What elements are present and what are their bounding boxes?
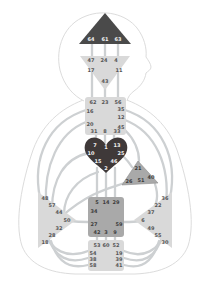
gate-62: 62 <box>90 99 97 105</box>
gate-21: 21 <box>135 165 142 171</box>
gate-11: 11 <box>116 67 123 73</box>
gate-33: 33 <box>114 128 121 134</box>
gate-28: 28 <box>49 232 56 238</box>
throat-center: 62 23 56 16 20 35 12 45 31 8 33 <box>85 97 126 135</box>
gate-9: 9 <box>113 229 117 235</box>
gate-24: 24 <box>101 57 108 63</box>
gate-37: 37 <box>148 209 155 215</box>
gate-64: 64 <box>88 36 95 42</box>
gate-60: 60 <box>103 242 110 248</box>
gate-31: 31 <box>91 128 98 134</box>
gate-49: 49 <box>148 225 155 231</box>
gate-56: 56 <box>115 99 122 105</box>
gate-30: 30 <box>162 239 169 245</box>
gate-7: 7 <box>93 142 97 148</box>
gate-43: 43 <box>102 78 109 84</box>
root-center: 53 60 52 54 38 58 19 39 41 <box>88 240 124 271</box>
gate-63: 63 <box>115 36 122 42</box>
gate-23: 23 <box>102 99 109 105</box>
gate-2: 2 <box>104 165 108 171</box>
gate-29: 29 <box>113 199 120 205</box>
bodygraph-figure: 64 61 63 47 24 4 17 11 43 62 23 56 16 20… <box>0 0 210 289</box>
gate-32: 32 <box>56 225 63 231</box>
gate-14: 14 <box>103 199 110 205</box>
gate-4: 4 <box>114 57 118 63</box>
gate-51: 51 <box>138 177 145 183</box>
gate-53: 53 <box>94 242 101 248</box>
gate-40: 40 <box>148 174 155 180</box>
gate-18: 18 <box>42 239 49 245</box>
gate-42: 42 <box>94 229 101 235</box>
gate-61: 61 <box>102 36 109 42</box>
gate-57: 57 <box>49 202 56 208</box>
gate-26: 26 <box>126 178 133 184</box>
gate-16: 16 <box>87 108 94 114</box>
sacral-center: 5 14 29 34 27 59 42 3 9 <box>88 197 124 237</box>
gate-52: 52 <box>113 242 120 248</box>
gate-48: 48 <box>42 195 49 201</box>
bodygraph-page: 64 61 63 47 24 4 17 11 43 62 23 56 16 20… <box>0 0 210 289</box>
gate-44: 44 <box>56 209 63 215</box>
gate-20: 20 <box>87 121 94 127</box>
gate-10: 10 <box>88 150 95 156</box>
gate-17: 17 <box>88 67 95 73</box>
gate-22: 22 <box>155 202 162 208</box>
gate-27: 27 <box>91 221 98 227</box>
gate-13: 13 <box>114 142 121 148</box>
gate-6: 6 <box>141 217 145 223</box>
gate-3: 3 <box>104 229 108 235</box>
gate-12: 12 <box>118 114 125 120</box>
gate-15: 15 <box>95 158 102 164</box>
gate-5: 5 <box>95 199 99 205</box>
gate-59: 59 <box>116 221 123 227</box>
gate-55: 55 <box>155 232 162 238</box>
gate-35: 35 <box>118 106 125 112</box>
gate-50: 50 <box>64 217 71 223</box>
gate-8: 8 <box>103 128 107 134</box>
gate-34: 34 <box>91 208 98 214</box>
gate-41: 41 <box>116 262 123 268</box>
gate-58: 58 <box>90 262 97 268</box>
gate-47: 47 <box>88 57 95 63</box>
gate-36: 36 <box>162 195 169 201</box>
gate-1: 1 <box>104 144 108 150</box>
gate-25: 25 <box>118 150 125 156</box>
gate-46: 46 <box>111 158 118 164</box>
